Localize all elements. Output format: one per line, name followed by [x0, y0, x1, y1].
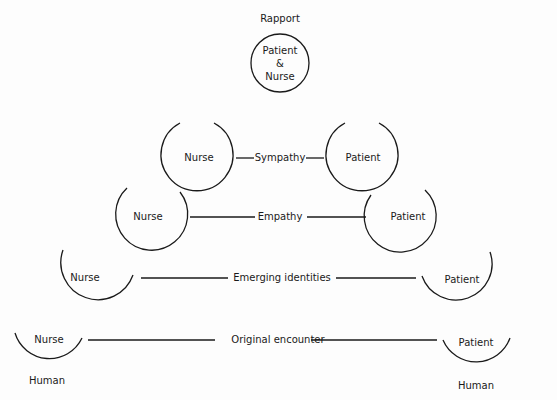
emerging-patient-label: Patient: [445, 274, 480, 285]
rapport-line-2: &: [276, 58, 284, 69]
sympathy-nurse-label: Nurse: [184, 152, 213, 163]
human-right-label: Human: [458, 380, 494, 391]
nurse-patient-relationship-diagram: Rapport Patient & Nurse Nurse Sympathy P…: [0, 0, 557, 400]
empathy-patient-label: Patient: [391, 211, 426, 222]
sympathy-patient-label: Patient: [346, 152, 381, 163]
empathy-label: Empathy: [258, 211, 303, 222]
human-left-label: Human: [29, 375, 65, 386]
original-nurse-label: Nurse: [34, 334, 63, 345]
empathy-nurse-label: Nurse: [133, 211, 162, 222]
sympathy-label: Sympathy: [255, 152, 306, 163]
rapport-title: Rapport: [260, 13, 300, 24]
emerging-label: Emerging identities: [233, 272, 331, 283]
original-patient-label: Patient: [459, 337, 494, 348]
emerging-nurse-label: Nurse: [70, 272, 99, 283]
rapport-line-3: Nurse: [265, 71, 294, 82]
rapport-line-1: Patient: [263, 45, 298, 56]
